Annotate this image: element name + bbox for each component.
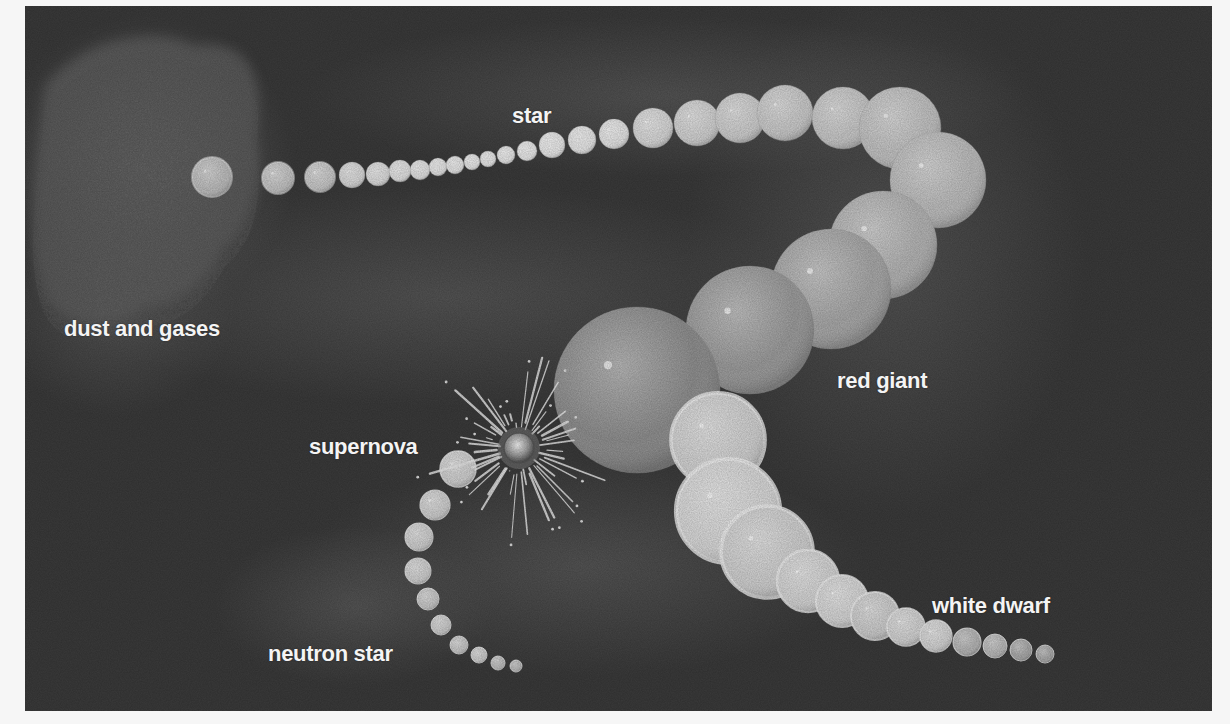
cropped-caption-text xyxy=(25,715,1212,724)
label-red-giant: red giant xyxy=(837,370,927,392)
label-dust-and-gases: dust and gases xyxy=(64,318,220,340)
star-life-cycle-illustration: dust and gases star red giant supernova … xyxy=(25,6,1212,711)
label-neutron-star: neutron star xyxy=(268,643,393,665)
label-white-dwarf: white dwarf xyxy=(932,595,1050,617)
label-star: star xyxy=(512,105,551,127)
label-supernova: supernova xyxy=(309,436,418,458)
